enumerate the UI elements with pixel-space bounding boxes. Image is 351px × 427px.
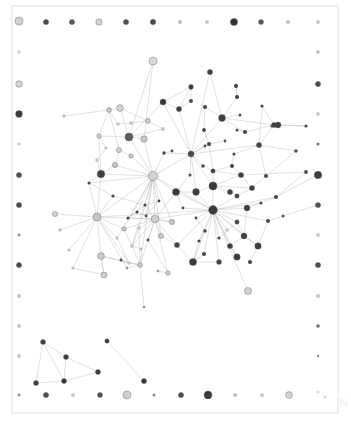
- graph-node: [219, 115, 226, 122]
- graph-node: [172, 188, 179, 195]
- graph-node: [125, 133, 133, 141]
- graph-node: [203, 229, 207, 233]
- graph-node: [157, 270, 160, 273]
- graph-node: [235, 220, 239, 224]
- graph-node: [41, 340, 46, 345]
- graph-node: [239, 114, 242, 117]
- graph-node: [230, 18, 237, 25]
- graph-node: [217, 260, 222, 265]
- graph-node: [211, 169, 215, 173]
- graph-node: [174, 242, 179, 247]
- graph-node: [71, 393, 75, 397]
- network-graph-figure: N: [0, 0, 351, 427]
- watermark-text: N: [339, 395, 347, 411]
- graph-node: [95, 158, 99, 162]
- graph-node: [67, 248, 70, 251]
- graph-node: [235, 194, 239, 198]
- graph-node: [143, 306, 146, 309]
- graph-node: [117, 105, 124, 112]
- graph-node: [97, 134, 101, 138]
- graph-node: [271, 125, 274, 128]
- graph-node: [189, 85, 194, 90]
- graph-node: [17, 142, 21, 146]
- graph-node: [316, 233, 320, 237]
- graph-node: [264, 174, 268, 178]
- graph-node: [64, 355, 69, 360]
- graph-node: [235, 95, 239, 99]
- graph-node: [260, 104, 263, 107]
- graph-node: [203, 105, 207, 109]
- graph-node: [137, 226, 141, 230]
- graph-node: [62, 379, 67, 384]
- graph-node: [145, 215, 148, 218]
- graph-node: [255, 243, 261, 249]
- graph-node: [209, 182, 217, 190]
- graph-node: [138, 263, 143, 268]
- graph-node: [241, 233, 247, 239]
- graph-node: [123, 19, 128, 24]
- graph-node: [15, 17, 23, 25]
- graph-node: [111, 194, 114, 197]
- graph-node: [112, 162, 117, 167]
- graph-node: [98, 393, 103, 398]
- graph-node: [304, 170, 308, 174]
- graph-node: [316, 324, 319, 327]
- graph-node: [323, 395, 326, 398]
- graph-node: [17, 354, 21, 358]
- graph-node: [88, 182, 91, 185]
- network-graph-canvas: [0, 0, 351, 427]
- graph-node: [107, 108, 112, 113]
- graph-node: [158, 200, 161, 203]
- graph-node: [275, 122, 281, 128]
- graph-node: [144, 204, 147, 207]
- graph-node: [217, 236, 220, 239]
- graph-node: [205, 20, 209, 24]
- graph-node: [316, 20, 320, 24]
- graph-node: [182, 207, 185, 210]
- graph-node: [315, 262, 320, 267]
- graph-node: [169, 219, 174, 224]
- graph-node: [197, 239, 200, 242]
- graph-node: [96, 370, 101, 375]
- graph-node: [259, 201, 262, 204]
- graph-node: [98, 253, 105, 260]
- graph-node: [316, 294, 320, 298]
- graph-node: [115, 236, 119, 240]
- graph-node: [34, 381, 39, 386]
- graph-node: [93, 213, 101, 221]
- graph-node: [52, 211, 57, 216]
- graph-node: [120, 259, 123, 262]
- graph-node: [204, 391, 212, 399]
- graph-node: [158, 233, 163, 238]
- graph-node: [150, 19, 155, 24]
- graph-node: [286, 392, 293, 399]
- graph-node: [139, 247, 142, 250]
- graph-node: [204, 145, 207, 148]
- graph-node: [249, 185, 254, 190]
- graph-node: [201, 164, 205, 168]
- graph-node: [230, 164, 234, 168]
- graph-node: [129, 154, 133, 158]
- graph-node: [207, 142, 211, 146]
- graph-node: [101, 272, 107, 278]
- graph-node: [238, 172, 243, 177]
- graph-node: [234, 84, 238, 88]
- graph-node: [193, 189, 200, 196]
- graph-node: [104, 146, 107, 149]
- graph-node: [136, 211, 139, 214]
- graph-node: [202, 252, 206, 256]
- graph-node: [162, 151, 165, 154]
- graph-node: [256, 142, 261, 147]
- graph-node: [127, 261, 131, 265]
- graph-node: [148, 171, 157, 180]
- graph-node: [234, 254, 240, 260]
- graph-node: [243, 130, 247, 134]
- graph-node: [147, 239, 150, 242]
- graph-node: [259, 20, 264, 25]
- graph-node: [274, 195, 278, 199]
- graph-node: [105, 339, 109, 343]
- graph-node: [178, 20, 182, 24]
- graph-node: [315, 81, 320, 86]
- graph-node: [116, 122, 120, 126]
- graph-node: [232, 152, 235, 155]
